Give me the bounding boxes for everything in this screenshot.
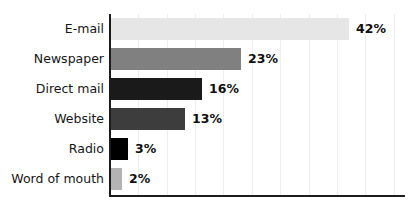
- bar[interactable]: [111, 168, 122, 190]
- bar[interactable]: [111, 78, 202, 100]
- bar-row: Word of mouth2%: [0, 164, 408, 194]
- value-label: 3%: [135, 143, 156, 156]
- bar[interactable]: [111, 108, 185, 130]
- category-label: E-mail: [0, 23, 104, 36]
- bar-row: Direct mail16%: [0, 74, 408, 104]
- chart-screenshot: E-mail42%Newspaper23%Direct mail16%Websi…: [0, 0, 408, 216]
- value-label: 16%: [209, 83, 239, 96]
- bar[interactable]: [111, 18, 349, 40]
- category-label: Word of mouth: [0, 173, 104, 186]
- bar-row: Radio3%: [0, 134, 408, 164]
- category-label: Direct mail: [0, 83, 104, 96]
- horizontal-bar-chart: E-mail42%Newspaper23%Direct mail16%Websi…: [0, 0, 408, 216]
- bar-row: Website13%: [0, 104, 408, 134]
- value-label: 2%: [129, 173, 150, 186]
- bar[interactable]: [111, 48, 241, 70]
- bar-row: Newspaper23%: [0, 44, 408, 74]
- category-label: Website: [0, 113, 104, 126]
- category-label: Radio: [0, 143, 104, 156]
- value-label: 23%: [248, 53, 278, 66]
- bar[interactable]: [111, 138, 128, 160]
- bar-row: E-mail42%: [0, 14, 408, 44]
- value-label: 13%: [192, 113, 222, 126]
- bar-rows: E-mail42%Newspaper23%Direct mail16%Websi…: [0, 14, 408, 196]
- category-label: Newspaper: [0, 53, 104, 66]
- value-label: 42%: [356, 23, 386, 36]
